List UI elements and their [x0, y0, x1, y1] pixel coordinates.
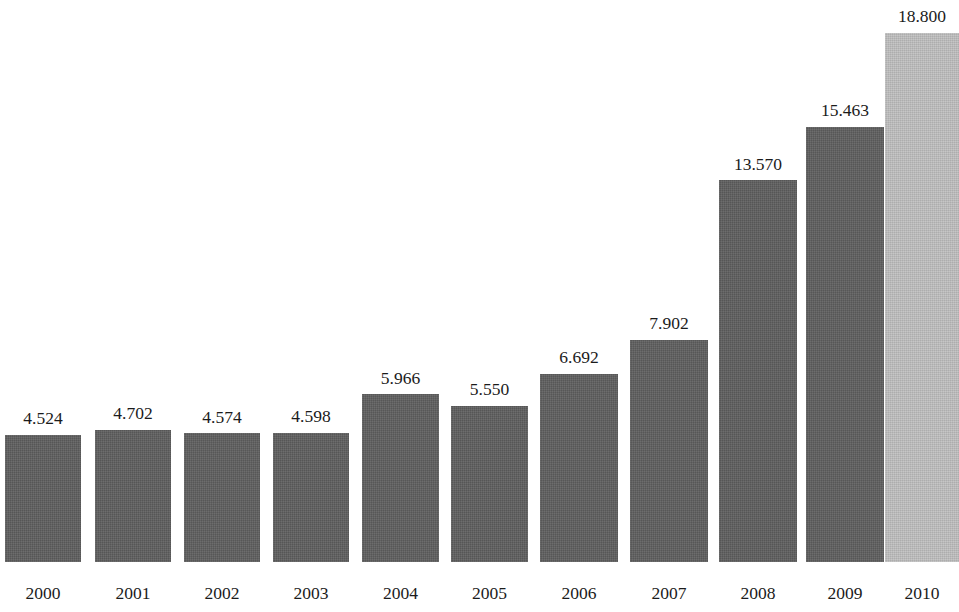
bar-value-label: 5.550 [470, 381, 509, 399]
bar-group: 4.7022001 [95, 430, 171, 562]
bar-group: 18.8002010 [885, 33, 959, 562]
bar-value-label: 15.463 [821, 102, 869, 120]
bar [95, 430, 171, 562]
bar-value-label: 6.692 [559, 349, 598, 367]
bar-group: 5.5502005 [451, 406, 528, 562]
bar-value-label: 4.524 [23, 410, 62, 428]
bar [540, 374, 618, 562]
x-axis-tick-label: 2000 [26, 585, 61, 603]
bar-value-label: 4.574 [202, 409, 241, 427]
bar [5, 435, 81, 562]
bar-group: 13.5702008 [719, 180, 797, 562]
bar-value-label: 4.598 [291, 408, 330, 426]
bar [630, 340, 708, 562]
bar-group: 15.4632009 [806, 127, 884, 562]
x-axis-tick-label: 2009 [828, 585, 863, 603]
bar-group: 5.9662004 [362, 394, 439, 562]
bar [273, 433, 349, 562]
bar-value-label: 5.966 [381, 370, 420, 388]
x-axis-tick-label: 2006 [562, 585, 597, 603]
plot-area: 4.52420004.70220014.57420024.59820035.96… [0, 0, 959, 612]
x-axis-tick-label: 2005 [472, 585, 507, 603]
bar [362, 394, 439, 562]
bar [885, 33, 959, 562]
x-axis-tick-label: 2003 [294, 585, 329, 603]
bar-group: 4.5242000 [5, 435, 81, 562]
bar-chart: 4.52420004.70220014.57420024.59820035.96… [0, 0, 959, 612]
x-axis-tick-label: 2007 [652, 585, 687, 603]
bar-value-label: 18.800 [898, 8, 946, 26]
bar-group: 7.9022007 [630, 340, 708, 562]
x-axis-tick-label: 2004 [383, 585, 418, 603]
bar-group: 4.5742002 [184, 433, 260, 562]
x-axis-tick-label: 2010 [905, 585, 940, 603]
bar-group: 6.6922006 [540, 374, 618, 562]
bar-group: 4.5982003 [273, 433, 349, 562]
x-axis-tick-label: 2008 [741, 585, 776, 603]
bar [184, 433, 260, 562]
bar [806, 127, 884, 562]
x-axis-tick-label: 2002 [205, 585, 240, 603]
bar [719, 180, 797, 562]
x-axis-tick-label: 2001 [116, 585, 151, 603]
bar-value-label: 13.570 [734, 156, 782, 174]
bar-value-label: 7.902 [649, 315, 688, 333]
bar [451, 406, 528, 562]
bar-value-label: 4.702 [113, 405, 152, 423]
